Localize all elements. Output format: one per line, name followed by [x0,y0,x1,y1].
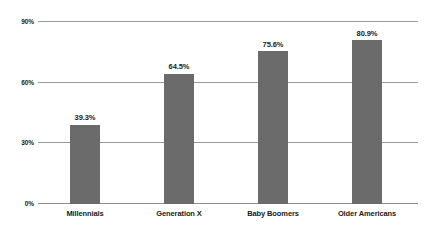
x-tick-label: Older Americans [320,210,414,218]
y-tick-label: 90% [4,19,34,26]
x-tick-label: Millennials [38,210,132,218]
x-tick-label: Generation X [132,210,226,218]
x-tick-label: Baby Boomers [226,210,320,218]
bar-value-label: 75.6% [263,41,284,49]
bar[interactable]: 80.9% [352,40,382,204]
plot-area: 39.3%64.5%75.6%80.9% [38,22,418,204]
y-axis-tick-labels: 0%30%60%90% [0,0,34,239]
bar-value-label: 64.5% [169,63,190,71]
bar-slot: 64.5% [132,22,226,204]
bar[interactable]: 39.3% [70,125,100,204]
bar-value-label: 80.9% [357,30,378,38]
y-tick-label: 30% [4,140,34,147]
y-tick-label: 60% [4,80,34,87]
bar-value-label: 39.3% [75,114,96,122]
bar[interactable]: 75.6% [258,51,288,204]
bar-slot: 80.9% [320,22,414,204]
y-tick-label: 0% [4,201,34,208]
bar-slot: 75.6% [226,22,320,204]
bar-slot: 39.3% [38,22,132,204]
bar-chart: 0%30%60%90% 39.3%64.5%75.6%80.9% Millenn… [0,0,442,239]
x-axis-tick-labels: MillennialsGeneration XBaby BoomersOlder… [38,210,418,226]
bar[interactable]: 64.5% [164,74,194,204]
